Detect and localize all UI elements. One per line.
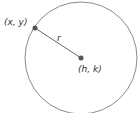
radius-label: r <box>57 33 62 43</box>
center-dot <box>79 56 84 61</box>
center-label: (h, k) <box>78 64 102 74</box>
point-label: (x, y) <box>4 17 27 27</box>
circle-diagram: (x, y) r (h, k) <box>0 0 139 113</box>
point-on-circle-dot <box>33 26 38 31</box>
